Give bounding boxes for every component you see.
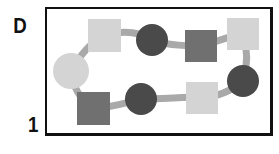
light-square-3 xyxy=(227,18,259,50)
light-square-8 xyxy=(186,82,218,114)
shape-loop-diagram xyxy=(0,0,279,154)
dark-circle-1 xyxy=(136,24,168,56)
light-square-0 xyxy=(88,19,121,52)
medium-square-2 xyxy=(185,30,217,62)
dark-circle-5 xyxy=(227,65,259,97)
medium-square-6 xyxy=(77,92,110,125)
light-circle-4 xyxy=(53,53,89,89)
dark-circle-7 xyxy=(125,83,157,115)
